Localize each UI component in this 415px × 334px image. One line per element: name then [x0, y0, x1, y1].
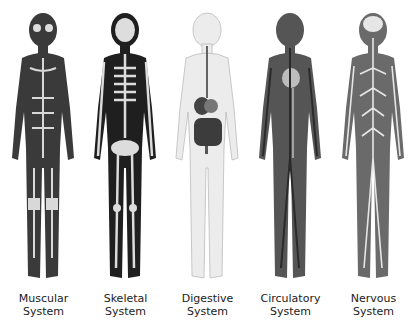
label-line1: Nervous [332, 292, 415, 305]
muscular-body-illustration [2, 8, 85, 286]
skeletal-system-figure: Skeletal System [84, 0, 167, 334]
label-line1: Muscular [2, 292, 85, 305]
label-circulatory: Circulatory System [249, 292, 332, 318]
label-nervous: Nervous System [332, 292, 415, 318]
circulatory-system-figure: Circulatory System [249, 0, 332, 334]
muscular-system-figure: Muscular System [2, 0, 85, 334]
label-digestive: Digestive System [166, 292, 249, 318]
label-line2: System [332, 305, 415, 318]
label-muscular: Muscular System [2, 292, 85, 318]
digestive-body-illustration [166, 8, 249, 286]
label-line2: System [166, 305, 249, 318]
label-line1: Circulatory [249, 292, 332, 305]
skeletal-body-illustration [84, 8, 167, 286]
circulatory-body-illustration [249, 8, 332, 286]
nervous-system-figure: Nervous System [332, 0, 415, 334]
digestive-system-figure: Digestive System [166, 0, 249, 334]
label-line2: System [2, 305, 85, 318]
label-line2: System [84, 305, 167, 318]
label-skeletal: Skeletal System [84, 292, 167, 318]
label-line1: Skeletal [84, 292, 167, 305]
label-line1: Digestive [166, 292, 249, 305]
nervous-body-illustration [332, 8, 415, 286]
label-line2: System [249, 305, 332, 318]
